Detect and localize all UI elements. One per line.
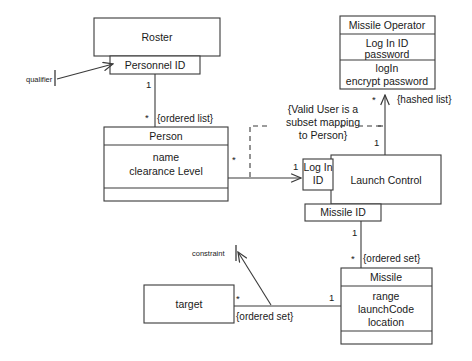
multiplicity-person-launch-many: * (232, 154, 236, 165)
multiplicity-person-launch-one: 1 (293, 161, 298, 172)
note-line-3: to Person} (299, 129, 348, 141)
multiplicity-launch-operator-one: 1 (374, 137, 379, 148)
qualifier-label-login-id-line2: ID (313, 174, 324, 186)
note-line-1: {Valid User is a (288, 103, 359, 115)
callout-qualifier (55, 64, 113, 86)
multiplicity-launch-operator-many: * (372, 94, 376, 105)
class-name-launch-control: Launch Control (350, 174, 421, 186)
callout-label-qualifier: qualifier (26, 75, 53, 84)
diagram-canvas: Roster Personnel ID Person name clearanc… (0, 0, 472, 361)
class-attr-missile-location: location (368, 316, 404, 328)
qualifier-personnel-id[interactable]: Personnel ID (110, 56, 200, 74)
class-attr-missile-range: range (373, 290, 400, 302)
class-op-operator-encrypt: encrypt password (346, 75, 428, 87)
class-box-launch-control[interactable]: Launch Control (331, 155, 441, 204)
class-name-missile: Missile (370, 271, 402, 283)
multiplicity-roster-person-many: * (145, 112, 149, 123)
multiplicity-missile-target-one: 1 (329, 292, 334, 303)
callout-constraint (236, 245, 271, 305)
class-name-person: Person (149, 130, 182, 142)
constraint-ordered-list: {ordered list} (157, 113, 214, 124)
class-attr-person-clearance: clearance Level (129, 165, 203, 177)
class-name-missile-operator: Missile Operator (349, 19, 426, 31)
class-box-roster[interactable]: Roster (94, 18, 220, 56)
class-attr-person-name: name (153, 151, 179, 163)
class-name-target: target (176, 298, 203, 310)
qualifier-label-login-id-line1: Log In (303, 161, 332, 173)
note-valid-user: {Valid User is a subset mapping to Perso… (286, 103, 360, 141)
class-name-roster: Roster (142, 31, 173, 43)
class-op-operator-login: logIn (376, 62, 399, 74)
class-box-target[interactable]: target (144, 285, 234, 323)
note-connector-left (250, 126, 267, 178)
qualifier-missile-id[interactable]: Missile ID (305, 204, 381, 221)
uml-class-diagram: Roster Personnel ID Person name clearanc… (0, 0, 472, 361)
multiplicity-roster-person-one: 1 (146, 79, 151, 90)
callout-label-constraint: constraint (192, 249, 225, 258)
class-attr-operator-password: password (365, 48, 410, 60)
class-box-missile[interactable]: Missile range launchCode location (341, 268, 432, 344)
multiplicity-launch-missile-one: 1 (352, 227, 357, 238)
qualifier-label-missile-id: Missile ID (320, 206, 366, 218)
constraint-hashed-list: {hashed list} (397, 94, 452, 105)
class-attr-missile-launchcode: launchCode (358, 303, 414, 315)
qualifier-login-id[interactable]: Log In ID (303, 159, 333, 190)
constraint-ordered-set-missile: {ordered set} (363, 253, 421, 264)
multiplicity-launch-missile-many: * (351, 253, 355, 264)
qualifier-label-personnel-id: Personnel ID (125, 59, 186, 71)
class-box-missile-operator[interactable]: Missile Operator Log In ID password logI… (340, 16, 435, 89)
multiplicity-missile-target-many: * (236, 293, 240, 304)
constraint-ordered-set-target: {ordered set} (236, 311, 294, 322)
class-box-person[interactable]: Person name clearance Level (104, 127, 228, 201)
